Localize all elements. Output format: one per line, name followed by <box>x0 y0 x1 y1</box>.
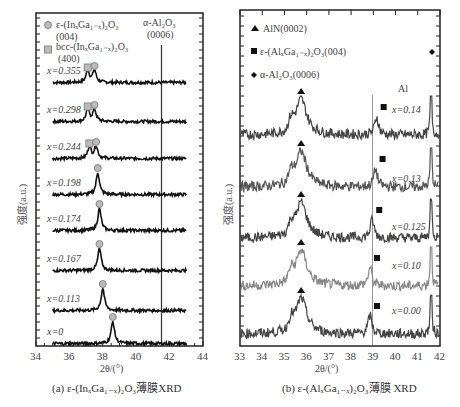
x-tick-label: 33 <box>234 350 246 362</box>
xrd-traces <box>241 88 438 338</box>
xrd-trace <box>241 148 438 192</box>
x-tick-label: 35 <box>278 350 290 362</box>
series-label: x=0.13 <box>391 173 421 184</box>
x-tick-label: 38 <box>345 350 357 362</box>
triangle-marker-icon <box>297 140 305 146</box>
x-tick-label: 40 <box>390 350 402 362</box>
triangle-marker-icon <box>297 239 305 245</box>
al-label: Al <box>398 83 408 94</box>
series-label: x=0.14 <box>391 104 421 115</box>
square-marker-icon <box>374 303 380 309</box>
series-label: x=0.10 <box>391 260 421 271</box>
x-axis-title: 2θ/(°) <box>315 363 338 375</box>
x-tick-label: 36 <box>301 350 313 362</box>
x-tick-label: 37 <box>323 350 335 362</box>
diamond-marker-icon <box>251 72 257 78</box>
series-label: x=0.125 <box>391 221 426 232</box>
diamond-marker-icon <box>429 49 435 55</box>
series-label: x=0.00 <box>391 305 421 316</box>
triangle-marker-icon <box>297 287 305 293</box>
legend-epsilon: ε-(AlₓGa₁₋ₓ)₂O₃(004) <box>260 46 346 58</box>
xrd-trace <box>241 96 438 139</box>
triangle-marker-icon <box>251 25 259 31</box>
square-marker-icon <box>376 207 382 213</box>
x-tick-label: 42 <box>434 350 445 362</box>
square-marker-icon <box>251 48 257 54</box>
legend-aln: AlN(0002) <box>263 23 307 35</box>
x-tick-label: 39 <box>367 350 379 362</box>
square-marker-icon <box>381 104 387 110</box>
panel-b-chart: AlN(0002) ε-(AlₓGa₁₋ₓ)₂O₃(004) α-Al₂O₃(0… <box>0 0 460 407</box>
x-tick-labels: 33343536373839404142 <box>234 350 445 362</box>
legend-sapphire: α-Al₂O₃(0006) <box>260 69 319 81</box>
x-tick-label: 41 <box>412 350 423 362</box>
y-axis-title: 强度(a.u.) <box>220 184 235 225</box>
square-marker-icon <box>374 255 380 261</box>
x-tick-label: 34 <box>256 350 268 362</box>
triangle-marker-icon <box>297 88 305 94</box>
square-marker-icon <box>380 156 386 162</box>
xrd-trace <box>241 295 438 338</box>
triangle-marker-icon <box>297 191 305 197</box>
caption-b: (b) ε-(AlₓGa₁₋ₓ)₂O₃薄膜 XRD <box>282 379 417 395</box>
